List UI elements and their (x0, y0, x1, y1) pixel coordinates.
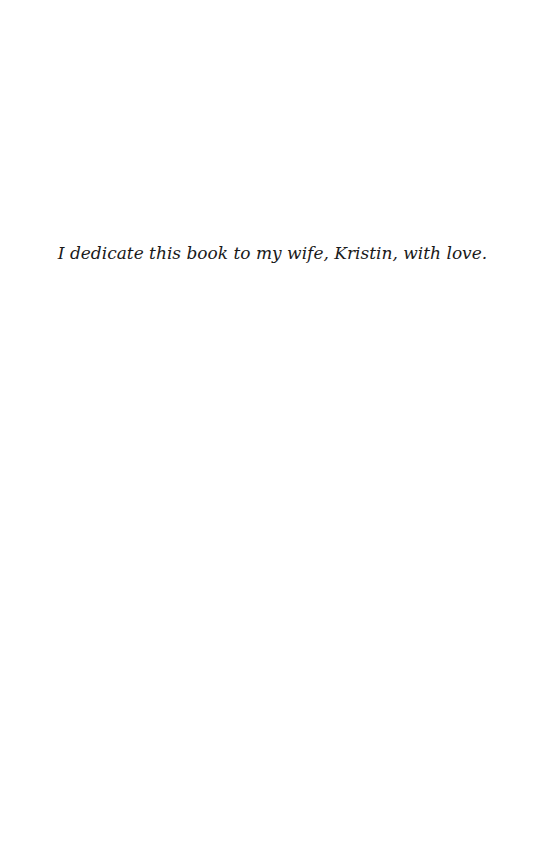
dedication-text: I dedicate this book to my wife, Kristin… (0, 243, 545, 263)
book-page: I dedicate this book to my wife, Kristin… (0, 0, 545, 866)
